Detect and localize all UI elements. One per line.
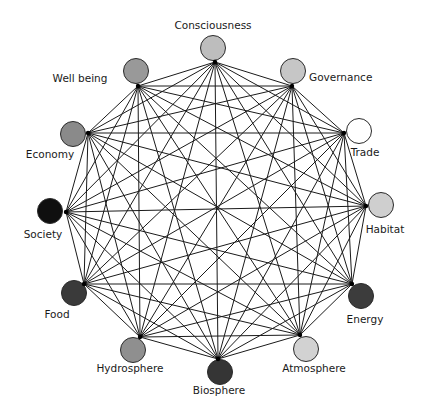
node-label-energy: Energy: [347, 313, 384, 325]
node-circle-well-being: [124, 59, 149, 84]
node-circle-biosphere: [208, 360, 233, 385]
node-label-well-being: Well being: [53, 72, 108, 84]
node-circle-atmosphere: [294, 337, 319, 362]
node-label-biosphere: Biosphere: [193, 384, 245, 396]
node-label-governance: Governance: [309, 71, 372, 83]
node-circle-society: [38, 199, 63, 224]
junction-dot: [82, 282, 86, 286]
node-label-hydrosphere: Hydrosphere: [96, 362, 163, 374]
junction-dot: [138, 335, 142, 339]
node-circle-hydrosphere: [121, 338, 146, 363]
node-circle-governance: [281, 59, 306, 84]
node-circle-economy: [61, 122, 86, 147]
junction-dot: [136, 84, 140, 88]
node-label-consciousness: Consciousness: [174, 19, 251, 31]
junction-dot: [364, 204, 368, 208]
junction-dot: [213, 60, 217, 64]
node-label-economy: Economy: [26, 148, 74, 160]
network-diagram: ConsciousnessGovernanceTradeHabitatEnerg…: [0, 0, 424, 420]
node-label-atmosphere: Atmosphere: [282, 362, 346, 374]
node-label-society: Society: [24, 228, 63, 240]
node-label-food: Food: [44, 308, 69, 320]
junction-dot: [342, 131, 346, 135]
junction-dot: [290, 84, 294, 88]
junction-dot: [216, 357, 220, 361]
junction-dot: [86, 131, 90, 135]
node-label-habitat: Habitat: [366, 223, 405, 235]
node-circle-consciousness: [201, 36, 226, 61]
node-circle-trade: [347, 119, 372, 144]
node-circle-habitat: [369, 193, 394, 218]
nodes-layer: [0, 0, 424, 420]
junction-dot: [298, 333, 302, 337]
junction-dot: [64, 210, 68, 214]
node-label-trade: Trade: [351, 146, 380, 158]
junction-dot: [350, 282, 354, 286]
node-circle-energy: [349, 284, 374, 309]
